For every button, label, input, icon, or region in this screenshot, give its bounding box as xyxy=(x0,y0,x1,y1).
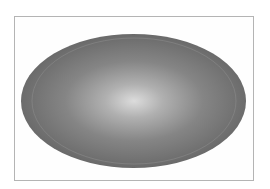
ellipse-body xyxy=(21,34,246,168)
gradient-ellipse xyxy=(0,0,270,189)
